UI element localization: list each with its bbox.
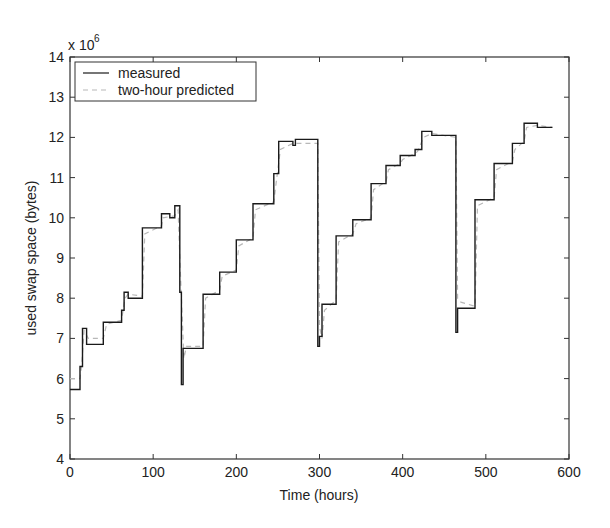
y-tick-label: 4 [56,451,64,467]
legend: measured two-hour predicted [75,62,256,101]
y-tick-label: 14 [48,49,64,65]
x-tick-label: 200 [225,464,249,480]
y-tick-label: 12 [48,129,64,145]
plot-area [70,57,569,459]
x-tick-label: 100 [141,464,165,480]
x-tick-label: 400 [391,464,415,480]
y-tick-label: 9 [56,250,64,266]
legend-label-measured: measured [118,65,180,81]
legend-label-predicted: two-hour predicted [118,82,234,98]
y-axis-label: used swap space (bytes) [23,181,39,336]
y-multiplier-exponent: 6 [94,33,100,44]
x-tick-label: 300 [308,464,332,480]
y-tick-label: 5 [56,411,64,427]
x-tick-label: 600 [557,464,581,480]
x-tick-label: 500 [474,464,498,480]
y-tick-label: 8 [56,290,64,306]
y-tick-label: 10 [48,210,64,226]
y-tick-label: 13 [48,89,64,105]
y-tick-label: 11 [49,170,64,186]
y-tick-label: 7 [56,330,64,346]
x-axis-label: Time (hours) [280,487,359,503]
y-multiplier-label: x 10 [68,37,95,53]
y-tick-label: 6 [56,371,64,387]
x-tick-label: 0 [66,464,74,480]
swap-space-chart: 0100200300400500600 4567891011121314 x 1… [0,0,610,528]
